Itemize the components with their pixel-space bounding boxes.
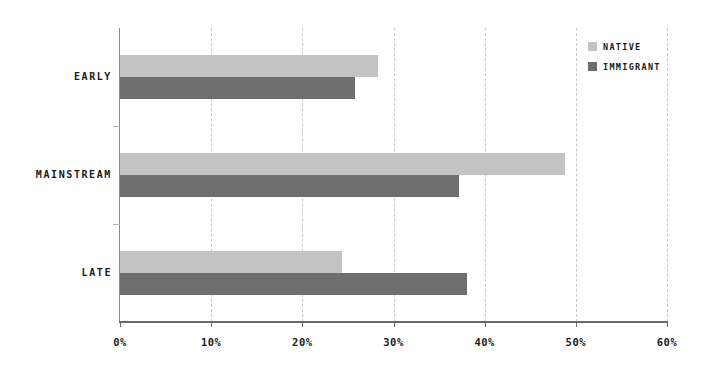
y-axis-tick xyxy=(113,126,120,127)
bar-late-native[interactable] xyxy=(120,251,342,273)
legend-swatch-native-icon xyxy=(588,42,597,51)
x-axis-tick xyxy=(576,322,577,327)
x-axis-tick xyxy=(302,322,303,327)
bar-early-immigrant[interactable] xyxy=(120,77,355,99)
bar-chart: EARLYMAINSTREAMLATE 0%10%20%30%40%50%60%… xyxy=(0,0,710,367)
x-axis-tick-label: 40% xyxy=(474,336,494,348)
bar-group-mainstream xyxy=(120,153,667,197)
x-axis-tick-label: 20% xyxy=(292,336,312,348)
category-label-mainstream: MAINSTREAM xyxy=(2,169,112,180)
x-axis-tick-label: 0% xyxy=(113,336,127,348)
y-axis-tick xyxy=(113,224,120,225)
y-axis-category-labels: EARLYMAINSTREAMLATE xyxy=(0,28,112,322)
category-label-late: LATE xyxy=(2,267,112,278)
legend-label-immigrant: IMMIGRANT xyxy=(603,62,661,72)
x-axis-tick xyxy=(485,322,486,327)
chart-legend: NATIVE IMMIGRANT xyxy=(588,38,703,78)
legend-swatch-immigrant-icon xyxy=(588,62,597,71)
bar-late-immigrant[interactable] xyxy=(120,273,467,295)
bar-group-late xyxy=(120,251,667,295)
bar-mainstream-immigrant[interactable] xyxy=(120,175,459,197)
bar-group-early xyxy=(120,55,667,99)
x-axis-tick xyxy=(211,322,212,327)
x-axis-tick xyxy=(120,322,121,327)
category-label-early: EARLY xyxy=(2,71,112,82)
legend-item-native[interactable]: NATIVE xyxy=(588,38,703,55)
legend-item-immigrant[interactable]: IMMIGRANT xyxy=(588,58,703,75)
x-axis-tick-labels: 0%10%20%30%40%50%60% xyxy=(0,336,710,356)
x-axis-tick-label: 30% xyxy=(383,336,403,348)
legend-label-native: NATIVE xyxy=(603,42,642,52)
bar-mainstream-native[interactable] xyxy=(120,153,565,175)
x-axis-tick xyxy=(667,322,668,327)
y-axis-line xyxy=(119,28,120,322)
plot-area xyxy=(120,28,667,322)
x-axis-tick-label: 50% xyxy=(566,336,586,348)
x-axis-tick-label: 10% xyxy=(201,336,221,348)
bar-early-native[interactable] xyxy=(120,55,378,77)
x-axis-tick-label: 60% xyxy=(657,336,677,348)
x-axis-tick xyxy=(394,322,395,327)
